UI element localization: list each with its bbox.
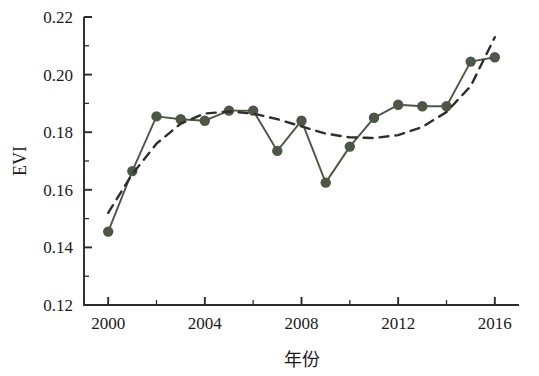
data-point-marker — [490, 52, 500, 62]
x-tick-label: 2012 — [381, 314, 415, 333]
x-tick-label: 2016 — [478, 314, 512, 333]
data-point-marker — [200, 116, 210, 126]
y-tick-label: 0.22 — [43, 8, 73, 27]
data-point-marker — [466, 56, 476, 66]
data-point-marker — [151, 111, 161, 121]
data-point-marker — [321, 177, 331, 187]
y-tick-label: 0.14 — [43, 238, 73, 257]
x-tick-label: 2000 — [91, 314, 125, 333]
evi-line-series — [108, 57, 495, 231]
data-point-marker — [103, 226, 113, 236]
data-point-marker — [417, 101, 427, 111]
data-point-marker — [272, 146, 282, 156]
y-axis-title: EVI — [10, 146, 30, 176]
data-point-marker — [296, 116, 306, 126]
data-point-marker — [369, 113, 379, 123]
x-tick-label: 2004 — [188, 314, 223, 333]
data-point-marker — [345, 141, 355, 151]
data-point-marker — [393, 100, 403, 110]
data-point-marker — [441, 101, 451, 111]
chart-axes — [84, 17, 519, 305]
y-tick-label: 0.20 — [43, 66, 73, 85]
chart-canvas: 0.120.140.160.180.200.222000200420082012… — [0, 0, 539, 376]
y-tick-label: 0.12 — [43, 296, 73, 315]
evi-trend-chart-figure: 0.120.140.160.180.200.222000200420082012… — [0, 0, 539, 376]
x-tick-label: 2008 — [285, 314, 319, 333]
y-tick-label: 0.18 — [43, 123, 73, 142]
y-tick-label: 0.16 — [43, 181, 73, 200]
x-axis-title: 年份 — [284, 350, 320, 370]
